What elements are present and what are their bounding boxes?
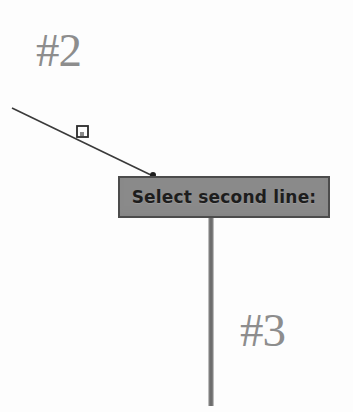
command-prompt-tooltip[interactable]: Select second line: [118, 176, 330, 218]
diagonal-line[interactable] [12, 108, 153, 176]
callout-label-2: #2 [36, 27, 81, 74]
command-prompt-text: Select second line: [132, 187, 317, 207]
snap-marker-inner-fill [80, 132, 84, 136]
cad-diagram-canvas: #2 #3 Select second line: [0, 0, 353, 412]
callout-label-3: #3 [240, 307, 285, 354]
